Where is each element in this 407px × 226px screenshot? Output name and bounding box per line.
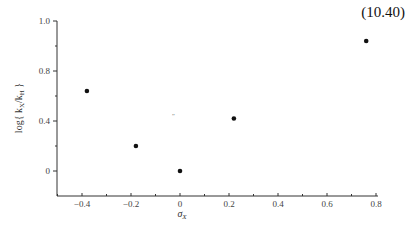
data-point (85, 89, 90, 94)
x-tick-label: 0.2 (223, 199, 234, 209)
y-axis: 1.00.80.40 (39, 16, 57, 196)
x-tick-label: −0.2 (123, 199, 139, 209)
data-point (134, 144, 139, 149)
data-point (232, 116, 237, 121)
y-axis-title: log{ kX/kH } (13, 83, 26, 133)
stray-mark: ″ (172, 112, 175, 120)
caption-fragment (0, 218, 407, 226)
y-tick-label: 0 (46, 166, 51, 176)
data-points (85, 39, 369, 174)
x-tick-label: 0.6 (321, 199, 333, 209)
x-tick-label: −0.4 (74, 199, 91, 209)
y-tick-label: 1.0 (39, 16, 51, 26)
data-point (178, 169, 183, 174)
x-tick-label: 0.4 (272, 199, 284, 209)
svg-text:log{ kX/kH }: log{ kX/kH } (13, 83, 26, 133)
y-tick-label: 0.4 (39, 116, 51, 126)
x-tick-label: 0.8 (370, 199, 382, 209)
y-tick-label: 0.8 (39, 66, 51, 76)
x-axis: −0.4−0.200.20.40.60.8 (57, 193, 382, 209)
scatter-plot: 1.00.80.40 −0.4−0.200.20.40.60.8 σX log{… (0, 0, 407, 226)
data-point (364, 39, 369, 44)
